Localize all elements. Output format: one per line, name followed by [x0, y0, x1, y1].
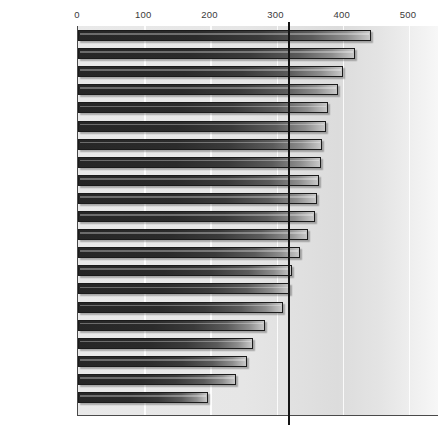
chart-row: Turkey [78, 30, 438, 41]
bar [78, 374, 236, 385]
chart-row: Brazil [78, 139, 438, 150]
x-axis-tick-label: 500 [400, 8, 416, 22]
bar [78, 193, 317, 204]
chart-row: Mexico [78, 265, 438, 276]
chart-row: Belarus [78, 338, 438, 349]
chart-row: China [78, 302, 438, 313]
reference-line [288, 22, 290, 425]
bar [78, 84, 338, 95]
bar [78, 211, 315, 222]
x-axis-tick-label: 200 [201, 8, 217, 22]
x-axis-tick-label: 100 [135, 8, 151, 22]
bar [78, 356, 247, 367]
chart-row: United States [78, 121, 438, 132]
chart-row: Belgium [78, 320, 438, 331]
bar [78, 139, 322, 150]
bar [78, 48, 355, 59]
bar [78, 102, 328, 113]
chart-row: Russia [78, 356, 438, 367]
bar [78, 175, 319, 186]
chart-row: Italy [78, 229, 438, 240]
x-axis-tick-labels: 0100200300400500 [0, 8, 438, 24]
plot-inner: TurkeySpainNigeriaIrelandSwedenUnited St… [78, 26, 438, 416]
bar [78, 265, 292, 276]
chart-row: Nigeria [78, 66, 438, 77]
bar [78, 283, 290, 294]
x-axis-line [77, 415, 438, 416]
chart-row: Spain [78, 48, 438, 59]
bar [78, 66, 343, 77]
bar [78, 30, 371, 41]
plot-area: TurkeySpainNigeriaIrelandSwedenUnited St… [77, 26, 438, 416]
chart-row: France [78, 283, 438, 294]
x-axis-tick-label: 300 [267, 8, 283, 22]
bar [78, 302, 283, 313]
chart-row: Canada [78, 157, 438, 168]
chart-row: Hungary [78, 247, 438, 258]
chart-row: Finland [78, 374, 438, 385]
bar [78, 338, 253, 349]
chart-row: Denmark [78, 193, 438, 204]
chart-row: Japan [78, 392, 438, 403]
x-axis-tick-label: 400 [334, 8, 350, 22]
chart-row: Britain [78, 211, 438, 222]
bar [78, 229, 308, 240]
chart-row: India [78, 175, 438, 186]
bar [78, 247, 300, 258]
chart-page: 0100200300400500 TurkeySpainNigeriaIrela… [0, 0, 438, 427]
bar [78, 157, 321, 168]
bar [78, 392, 208, 403]
chart-row: Ireland [78, 84, 438, 95]
x-axis-tick-label: 0 [74, 8, 79, 22]
chart-row: Sweden [78, 102, 438, 113]
bar [78, 320, 265, 331]
